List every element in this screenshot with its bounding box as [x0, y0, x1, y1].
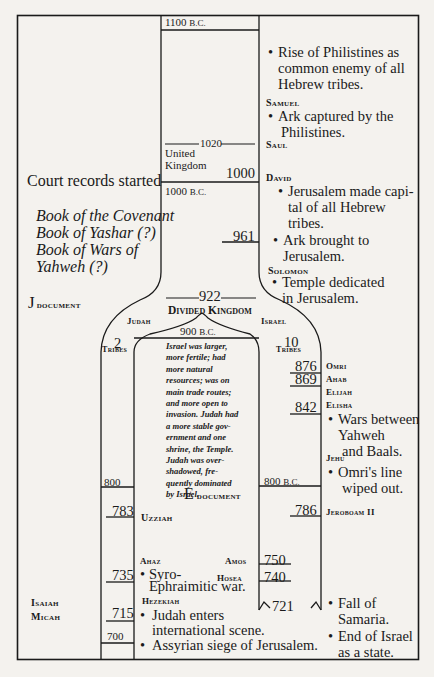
year-922: 922 [199, 289, 221, 304]
saul-label: Saul [266, 140, 288, 150]
united-label: United [165, 148, 195, 159]
year-715: 715 [112, 606, 134, 621]
year-869: 869 [295, 372, 317, 387]
year-750: 750 [264, 553, 286, 568]
micah-label: Micah [31, 612, 60, 622]
jehu-label: Jehu [326, 454, 345, 463]
year-740: 740 [264, 570, 286, 585]
hezekiah-label: Hezekiah [142, 597, 179, 606]
elijah-label: Elijah [326, 388, 352, 397]
judah-800: 800 [104, 477, 121, 488]
hosea-label: Hosea [217, 574, 242, 583]
amos-label: Amos [225, 557, 246, 566]
year-721: 721 [272, 599, 294, 614]
elisha-label: Elisha [326, 401, 352, 410]
divided-kingdom-label: Divided Kingdom [168, 305, 252, 317]
comparison-note: Israel was larger, more fertile; had mor… [166, 341, 238, 501]
year-783: 783 [112, 504, 134, 519]
era-1100: 1100 B.C. [165, 17, 206, 28]
uzziah-label: Uzziah [141, 513, 173, 523]
book-wars: Book of Wars of [36, 242, 138, 258]
court-records: Court records started [27, 173, 161, 189]
samuel-label: Samuel [266, 98, 299, 108]
israel-tribes: Tribes [276, 346, 301, 354]
year-735: 735 [112, 568, 134, 583]
david-label: David [266, 173, 292, 183]
book-wars-cont: Yahweh (?) [36, 259, 108, 275]
ahaz-label: Ahaz [140, 557, 161, 566]
year-700: 700 [107, 631, 124, 642]
j-document: Jdocument [28, 294, 81, 311]
jeroboam-label: Jeroboam II [326, 508, 375, 517]
ahab-label: Ahab [326, 375, 347, 384]
era-900: 900 B.C. [180, 326, 216, 337]
year-961: 961 [233, 229, 255, 244]
era-800: 800 B.C. [264, 476, 300, 487]
year-1020: 1020 [200, 138, 222, 149]
year-786: 786 [295, 503, 317, 518]
book-yashar: Book of Yashar (?) [36, 225, 156, 241]
year-842: 842 [295, 400, 317, 415]
isaiah-label: Isaiah [31, 598, 59, 608]
kingdom-label: Kingdom [165, 160, 207, 171]
israel-label: Israel [261, 317, 286, 326]
omri-label: Omri [326, 362, 347, 371]
e-document: Edocument [184, 486, 241, 502]
era-1000: 1000 B.C. [165, 186, 206, 197]
year-1000: 1000 [226, 166, 255, 181]
judah-label: Judah [127, 317, 151, 326]
judah-tribes: Tribes [102, 346, 127, 354]
book-covenant: Book of the Covenant [36, 208, 174, 224]
